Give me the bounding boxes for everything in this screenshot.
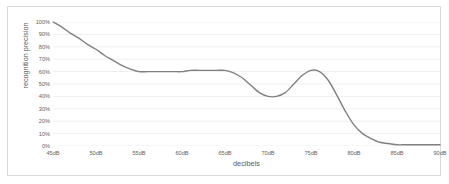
line-series bbox=[53, 22, 440, 146]
y-tick-label: 0% bbox=[16, 143, 50, 149]
x-axis-title: decibels bbox=[53, 159, 440, 168]
chart-container: recognition precision 100%90%80%70%60%50… bbox=[7, 6, 441, 176]
x-tick-label: 55dB bbox=[119, 150, 159, 156]
x-tick-label: 75dB bbox=[291, 150, 331, 156]
x-tick-label: 90dB bbox=[420, 150, 449, 156]
y-axis-tick-labels: 100%90%80%70%60%50%40%30%20%10%0% bbox=[16, 22, 50, 146]
x-tick-label: 85dB bbox=[377, 150, 417, 156]
y-tick-label: 60% bbox=[16, 69, 50, 75]
y-tick-label: 80% bbox=[16, 44, 50, 50]
x-tick-label: 80dB bbox=[334, 150, 374, 156]
x-tick-label: 70dB bbox=[248, 150, 288, 156]
plot-area bbox=[53, 22, 440, 146]
x-tick-label: 60dB bbox=[162, 150, 202, 156]
y-tick-label: 50% bbox=[16, 81, 50, 87]
series-line bbox=[53, 22, 440, 145]
y-tick-label: 10% bbox=[16, 131, 50, 137]
y-tick-label: 90% bbox=[16, 31, 50, 37]
x-tick-label: 45dB bbox=[33, 150, 73, 156]
y-tick-label: 70% bbox=[16, 56, 50, 62]
x-tick-label: 65dB bbox=[205, 150, 245, 156]
y-tick-label: 30% bbox=[16, 106, 50, 112]
y-tick-label: 20% bbox=[16, 118, 50, 124]
y-tick-label: 100% bbox=[16, 19, 50, 25]
y-tick-label: 40% bbox=[16, 93, 50, 99]
x-tick-label: 50dB bbox=[76, 150, 116, 156]
